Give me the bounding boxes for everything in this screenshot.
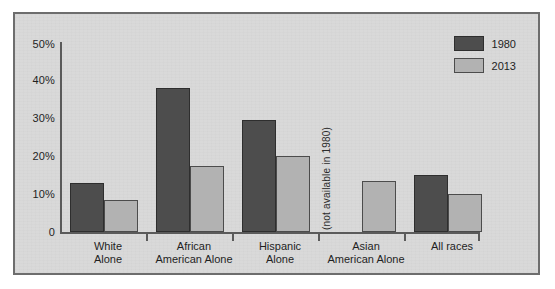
bar-group-white-alone: White Alone — [70, 42, 146, 232]
y-tick-label-50: 50% — [32, 38, 55, 50]
bar-hispanic-alone-1980[interactable] — [242, 120, 276, 232]
x-label-line1: All races — [431, 240, 473, 253]
x-axis-tick — [146, 234, 148, 241]
x-label-asian-american-alone: Asian American Alone — [327, 240, 404, 266]
x-axis-tick — [318, 234, 320, 241]
x-label-line2: Alone — [94, 253, 122, 266]
bar-group-hispanic-alone: Hispanic Alone — [242, 42, 318, 232]
x-axis-tick — [478, 234, 480, 241]
x-label-hispanic-alone: Hispanic Alone — [259, 240, 301, 266]
y-tick-label-20: 20% — [32, 150, 55, 162]
x-label-line1: White — [94, 240, 122, 253]
x-label-line1: Hispanic — [259, 240, 301, 253]
legend-label-1980: 1980 — [492, 38, 516, 50]
bar-group-bars — [70, 42, 138, 232]
bar-hispanic-alone-2013[interactable] — [276, 156, 310, 232]
chart-panel: 1980 2013 0 10% 20% 30% 40% 50% — [13, 12, 540, 275]
bar-group-bars — [328, 42, 396, 232]
x-label-line1: Asian — [327, 240, 404, 253]
x-label-all-races: All races — [431, 240, 473, 253]
y-tick-label-10: 10% — [32, 188, 55, 200]
y-tick-label-0: 0 — [49, 226, 55, 238]
bar-asian-american-alone-2013[interactable] — [362, 181, 396, 232]
bar-african-american-alone-2013[interactable] — [190, 166, 224, 233]
bar-group-all-races: All races — [414, 42, 490, 232]
x-label-white-alone: White Alone — [94, 240, 122, 266]
bar-group-asian-american-alone: (not available in 1980) Asian American A… — [328, 42, 404, 232]
bar-group-bars — [156, 42, 224, 232]
y-axis-line — [60, 42, 62, 233]
x-label-line2: American Alone — [155, 253, 232, 266]
bar-group-bars — [414, 42, 482, 232]
x-label-line1: African — [155, 240, 232, 253]
x-label-african-american-alone: African American Alone — [155, 240, 232, 266]
bar-all-races-2013[interactable] — [448, 194, 482, 232]
plot-area: 0 10% 20% 30% 40% 50% White Alone — [60, 42, 480, 232]
legend-label-2013: 2013 — [492, 60, 516, 72]
y-tick-label-40: 40% — [32, 74, 55, 86]
bar-white-alone-1980[interactable] — [70, 183, 104, 232]
x-axis-line — [60, 232, 480, 234]
bar-group-bars — [242, 42, 310, 232]
x-label-line2: Alone — [259, 253, 301, 266]
bar-white-alone-2013[interactable] — [104, 200, 138, 232]
bar-african-american-alone-1980[interactable] — [156, 88, 190, 232]
y-tick-label-30: 30% — [32, 112, 55, 124]
x-label-line2: American Alone — [327, 253, 404, 266]
bar-group-african-american-alone: African American Alone — [156, 42, 232, 232]
bar-all-races-1980[interactable] — [414, 175, 448, 232]
